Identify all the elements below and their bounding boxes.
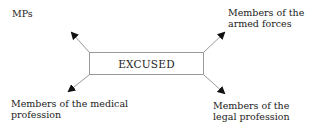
node-legal: Members of the legal profession <box>213 100 290 122</box>
node-armed-forces-line-2: armed forces <box>228 18 304 29</box>
node-armed-forces: Members of the armed forces <box>228 7 304 29</box>
node-medical-line-1: Members of the medical <box>11 98 128 109</box>
node-medical-line-2: profession <box>11 109 128 120</box>
node-mps-line-1: MPs <box>12 8 33 19</box>
node-medical: Members of the medical profession <box>11 98 128 120</box>
node-legal-line-1: Members of the <box>213 100 290 111</box>
excused-label: EXCUSED <box>118 58 175 70</box>
node-legal-line-2: legal profession <box>213 111 290 122</box>
node-mps: MPs <box>12 8 33 19</box>
node-armed-forces-line-1: Members of the <box>228 7 304 18</box>
excused-box: EXCUSED <box>89 52 204 75</box>
